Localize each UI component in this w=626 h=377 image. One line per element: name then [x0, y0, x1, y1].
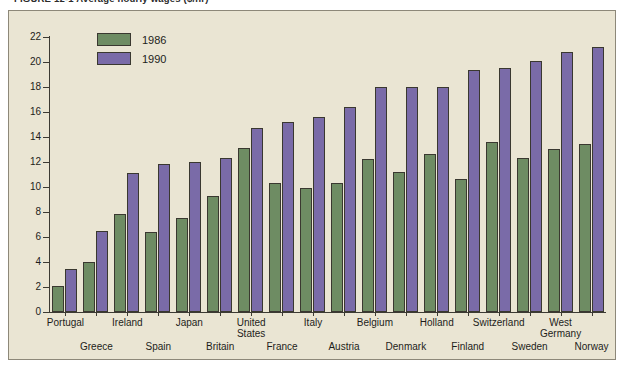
bar-1986 [517, 158, 529, 312]
legend-label-1990: 1990 [142, 53, 166, 65]
x-axis-tick [127, 312, 128, 316]
y-axis-tick-label: 12 [15, 156, 41, 167]
x-axis-tick [65, 312, 66, 316]
bar-1986 [424, 154, 436, 312]
bar-1986 [238, 148, 250, 312]
y-axis-tick [43, 112, 49, 113]
x-axis-tick [282, 312, 283, 316]
x-axis-tick [592, 312, 593, 316]
x-axis-tick [251, 312, 252, 316]
bar-1990 [437, 87, 449, 312]
bar-1990 [499, 68, 511, 312]
y-axis-tick-label: 20 [15, 56, 41, 67]
bar-1986 [455, 179, 467, 312]
y-axis-tick-label: 14 [15, 131, 41, 142]
y-axis-tick [43, 37, 49, 38]
x-axis-tick [344, 312, 345, 316]
y-axis-tick-label: 16 [15, 106, 41, 117]
bar-1986 [83, 262, 95, 312]
bar-1986 [300, 188, 312, 312]
y-axis-tick [43, 162, 49, 163]
y-axis-tick [43, 137, 49, 138]
bar-1986 [579, 144, 591, 312]
y-axis-tick-label: 6 [15, 231, 41, 242]
legend-label-1986: 1986 [142, 34, 166, 46]
legend-item: 1986 [97, 33, 166, 46]
x-axis-category-label: Norway [554, 341, 626, 352]
bar-1986 [176, 218, 188, 312]
legend-swatch-1990 [97, 52, 131, 65]
chart-legend: 1986 1990 [97, 33, 166, 71]
x-axis-tick [189, 312, 190, 316]
bar-1990 [282, 122, 294, 312]
bar-1990 [468, 70, 480, 312]
x-axis-tick [313, 312, 314, 316]
x-axis-tick [96, 312, 97, 316]
y-axis-tick-label: 8 [15, 206, 41, 217]
y-axis-tick-label: 0 [15, 306, 41, 317]
bar-1986 [52, 286, 64, 312]
bar-1990 [127, 173, 139, 312]
y-axis-tick [43, 262, 49, 263]
bar-1990 [344, 107, 356, 312]
bar-1986 [331, 183, 343, 312]
y-axis-tick [43, 187, 49, 188]
bar-1986 [393, 172, 405, 312]
bar-1990 [375, 87, 387, 312]
x-axis-tick [375, 312, 376, 316]
x-axis-category-label: WestGermany [523, 317, 599, 339]
x-axis-tick [406, 312, 407, 316]
figure-caption: FIGURE 12-1 Average hourly wages ($/hr) [14, 0, 209, 5]
x-axis-tick [499, 312, 500, 316]
y-axis-line [49, 36, 50, 313]
y-axis-tick [43, 312, 49, 313]
legend-item: 1990 [97, 52, 166, 65]
bar-1990 [65, 269, 77, 312]
bar-1990 [251, 128, 263, 312]
x-axis-tick [158, 312, 159, 316]
bar-1986 [207, 196, 219, 312]
y-axis-tick [43, 287, 49, 288]
y-axis-tick-label: 22 [15, 31, 41, 42]
y-axis-tick-label: 10 [15, 181, 41, 192]
bar-1990 [592, 47, 604, 312]
bar-1990 [220, 158, 232, 312]
bar-1986 [145, 232, 157, 312]
legend-swatch-1986 [97, 33, 131, 46]
y-axis-tick-label: 4 [15, 256, 41, 267]
y-axis-tick [43, 62, 49, 63]
bar-1986 [548, 149, 560, 312]
bar-1986 [362, 159, 374, 312]
bar-1986 [114, 214, 126, 312]
bar-1986 [269, 183, 281, 312]
y-axis-tick [43, 237, 49, 238]
x-axis-tick [530, 312, 531, 316]
x-axis-line [49, 312, 606, 313]
y-axis-tick-label: 2 [15, 281, 41, 292]
bar-1990 [530, 61, 542, 312]
x-axis-tick [468, 312, 469, 316]
chart-panel: 0246810121416182022 PortugalGreeceIrelan… [8, 10, 616, 360]
bar-1990 [406, 87, 418, 312]
y-axis-tick-label: 18 [15, 81, 41, 92]
bar-1990 [158, 164, 170, 312]
bar-1990 [561, 52, 573, 312]
x-axis-tick [561, 312, 562, 316]
y-axis-tick [43, 212, 49, 213]
x-axis-tick [437, 312, 438, 316]
bar-1990 [189, 162, 201, 312]
bar-1986 [486, 142, 498, 312]
bar-1990 [313, 117, 325, 312]
y-axis-tick [43, 87, 49, 88]
bar-1990 [96, 231, 108, 312]
x-axis-tick [220, 312, 221, 316]
